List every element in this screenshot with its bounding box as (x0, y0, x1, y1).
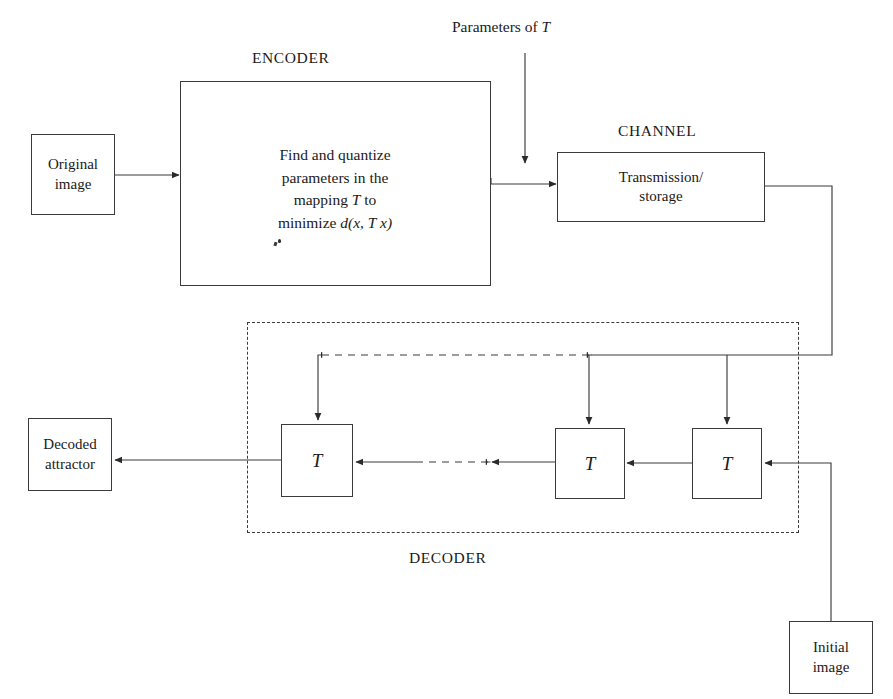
parameters-of-t-label: Parameters of T (452, 18, 550, 36)
edge-initial-image-to-transform-3 (765, 463, 831, 621)
decoder-caption: DECODER (409, 549, 486, 567)
transform-box-2[interactable]: T (555, 428, 625, 499)
transform-label-3: T (722, 453, 733, 475)
original-image-label: Original image (48, 155, 98, 193)
decoded-attractor-box[interactable]: Decoded attractor (28, 418, 112, 491)
encoder-caption: ENCODER (252, 49, 329, 67)
encoder-body-line-1: Find and quantize (180, 144, 490, 167)
parameters-of-t-text: Parameters of (452, 18, 542, 35)
encoder-line4-pre: minimize (278, 214, 340, 231)
encoder-body-line-4: minimize d(x, T x) (180, 212, 490, 235)
channel-caption: CHANNEL (618, 122, 696, 140)
original-image-box[interactable]: Original image (31, 134, 115, 215)
channel-body-label: Transmission/ storage (619, 168, 703, 206)
decoded-attractor-label: Decoded attractor (43, 435, 96, 473)
channel-box[interactable]: Transmission/ storage (557, 152, 765, 222)
fractal-coding-diagram: Original image Find and quantize paramet… (0, 0, 893, 699)
encoder-body-text: Find and quantize parameters in the mapp… (180, 144, 490, 235)
transform-label-2: T (585, 453, 596, 475)
encoder-body-line-3: mapping T to (180, 189, 490, 212)
transform-box-3[interactable]: T (692, 428, 762, 499)
transform-label-1: T (312, 450, 323, 472)
initial-image-box[interactable]: Initial image (789, 621, 873, 694)
initial-image-label: Initial image (813, 638, 850, 676)
encoder-line3-post: to (360, 191, 376, 208)
encoder-line4-expression: d(x, T x) (340, 214, 392, 231)
parameters-of-t-variable: T (542, 18, 551, 35)
transform-box-1[interactable]: T (281, 424, 353, 497)
ink-smudge-artifact (274, 239, 283, 249)
encoder-line3-pre: mapping (294, 191, 352, 208)
encoder-body-line-2: parameters in the (180, 167, 490, 190)
edge-encoder-to-channel (491, 178, 556, 184)
